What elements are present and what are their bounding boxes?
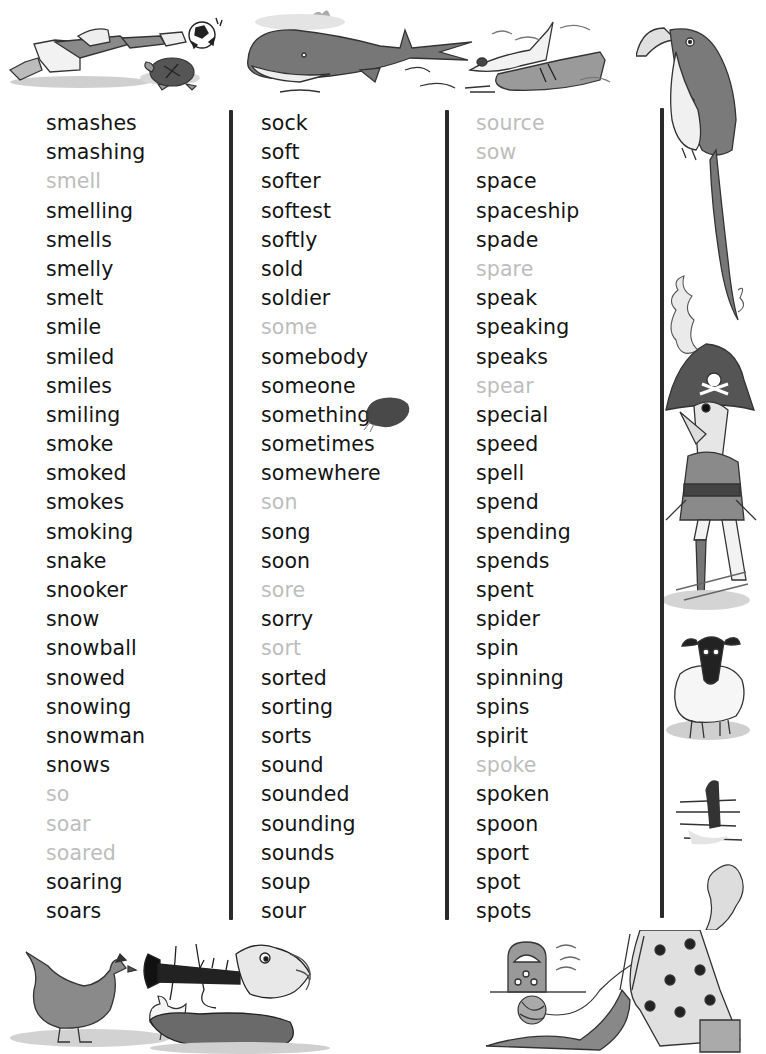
word-item: speed xyxy=(476,430,579,459)
clarinet-player-illustration xyxy=(144,944,330,1054)
football-icon xyxy=(189,18,222,48)
word-item: snowed xyxy=(46,664,145,693)
column-divider-1 xyxy=(229,110,233,920)
word-item: spend xyxy=(476,488,579,517)
word-item: song xyxy=(261,518,381,547)
word-item: sorry xyxy=(261,605,381,634)
word-item: somewhere xyxy=(261,459,381,488)
word-item: speaks xyxy=(476,343,579,372)
word-item: soft xyxy=(261,138,381,167)
word-item: sow xyxy=(476,138,579,167)
word-item: spear xyxy=(476,372,579,401)
word-item: spending xyxy=(476,518,579,547)
ink-blot xyxy=(362,392,412,432)
word-item: spider xyxy=(476,605,579,634)
word-item: sorts xyxy=(261,722,381,751)
word-item: sorted xyxy=(261,664,381,693)
word-item: snooker xyxy=(46,576,145,605)
word-item: smiling xyxy=(46,401,145,430)
word-item: spots xyxy=(476,897,579,926)
word-item: sounding xyxy=(261,810,381,839)
right-illustration-strip xyxy=(636,0,766,930)
word-item: spin xyxy=(476,634,579,663)
word-item: source xyxy=(476,109,579,138)
word-item: sore xyxy=(261,576,381,605)
word-item: smile xyxy=(46,313,145,342)
word-item: smoke xyxy=(46,430,145,459)
word-item: snowman xyxy=(46,722,145,751)
word-item: space xyxy=(476,167,579,196)
word-item: snowball xyxy=(46,634,145,663)
column-divider-3 xyxy=(660,108,664,918)
word-item: spare xyxy=(476,255,579,284)
word-item: snow xyxy=(46,605,145,634)
smoke-illustration xyxy=(671,276,744,353)
word-item: smelly xyxy=(46,255,145,284)
word-item: sold xyxy=(261,255,381,284)
word-item: sort xyxy=(261,634,381,663)
word-item: snowing xyxy=(46,693,145,722)
sheep-illustration xyxy=(666,637,750,740)
top-illustration-strip xyxy=(0,0,640,100)
parrot-illustration xyxy=(636,28,738,320)
word-item: speak xyxy=(476,284,579,313)
word-item: spoke xyxy=(476,751,579,780)
word-item: sorting xyxy=(261,693,381,722)
word-item: smiled xyxy=(46,343,145,372)
word-item: spoken xyxy=(476,780,579,809)
bottom-illustration-strip xyxy=(0,930,766,1054)
word-item: softly xyxy=(261,226,381,255)
word-item: sour xyxy=(261,897,381,926)
shoes-illustration xyxy=(465,22,610,92)
word-item: soup xyxy=(261,868,381,897)
word-item: smoking xyxy=(46,518,145,547)
word-item: spell xyxy=(476,459,579,488)
tortoise-illustration xyxy=(140,58,200,90)
word-list-page: smashessmashingsmellsmellingsmellssmelly… xyxy=(0,0,766,1054)
word-item: smelt xyxy=(46,284,145,313)
word-item: snows xyxy=(46,751,145,780)
word-item: sport xyxy=(476,839,579,868)
word-item: spoon xyxy=(476,810,579,839)
word-item: so xyxy=(46,780,145,809)
word-item: spaceship xyxy=(476,197,579,226)
word-item: smoked xyxy=(46,459,145,488)
word-item: soar xyxy=(46,810,145,839)
word-item: spinning xyxy=(476,664,579,693)
word-item: sometimes xyxy=(261,430,381,459)
word-item: soaring xyxy=(46,868,145,897)
word-item: softer xyxy=(261,167,381,196)
word-item: soars xyxy=(46,897,145,926)
word-column-1: smashessmashingsmellsmellingsmellssmelly… xyxy=(46,109,145,926)
pirate-illustration xyxy=(662,344,756,610)
word-item: somebody xyxy=(261,343,381,372)
word-item: sounds xyxy=(261,839,381,868)
word-item: smashes xyxy=(46,109,145,138)
word-item: smelling xyxy=(46,197,145,226)
word-item: son xyxy=(261,488,381,517)
word-item: soared xyxy=(46,839,145,868)
word-item: smell xyxy=(46,167,145,196)
word-item: soldier xyxy=(261,284,381,313)
sea-serpent-illustration xyxy=(676,781,742,844)
word-column-3: sourcesowspacespaceshipspadesparespeaksp… xyxy=(476,109,579,926)
word-item: some xyxy=(261,313,381,342)
word-item: spade xyxy=(476,226,579,255)
word-item: smashing xyxy=(46,138,145,167)
word-item: sounded xyxy=(261,780,381,809)
word-item: spends xyxy=(476,547,579,576)
woman-hair-illustration xyxy=(706,865,743,930)
word-column-2: socksoftsoftersoftestsoftlysoldsoldierso… xyxy=(261,109,381,926)
word-item: spirit xyxy=(476,722,579,751)
whale-illustration xyxy=(248,10,472,92)
word-item: soon xyxy=(261,547,381,576)
column-divider-2 xyxy=(445,110,449,920)
word-item: snake xyxy=(46,547,145,576)
word-item: sock xyxy=(261,109,381,138)
word-item: softest xyxy=(261,197,381,226)
word-item: spent xyxy=(476,576,579,605)
word-item: smiles xyxy=(46,372,145,401)
word-item: spins xyxy=(476,693,579,722)
radio-illustration xyxy=(490,942,586,992)
word-item: sound xyxy=(261,751,381,780)
